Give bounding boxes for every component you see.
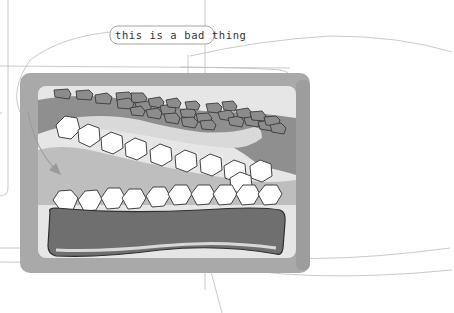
callout-label: this is a bad thing	[110, 26, 247, 44]
frame-shadow	[296, 80, 310, 270]
callout-text: this is a bad thing	[115, 29, 247, 41]
diagram-canvas: this is a bad thing	[0, 0, 454, 313]
